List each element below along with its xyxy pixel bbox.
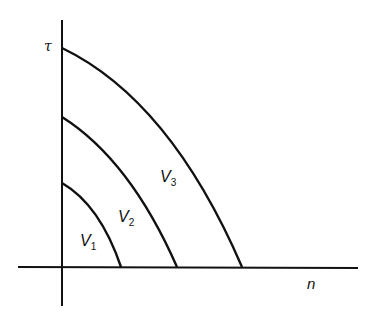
diagram-svg: [0, 0, 377, 322]
curve-label-v2: V2: [118, 208, 134, 228]
curve-label-v3: V3: [160, 168, 176, 188]
y-axis-label: τ: [44, 38, 52, 54]
diagram-canvas: τ n V1 V2 V3: [0, 0, 377, 322]
curve-v1: [62, 183, 121, 267]
curve-label-v1: V1: [80, 232, 96, 252]
x-axis-label: n: [307, 275, 315, 292]
x-axis: [18, 267, 358, 268]
